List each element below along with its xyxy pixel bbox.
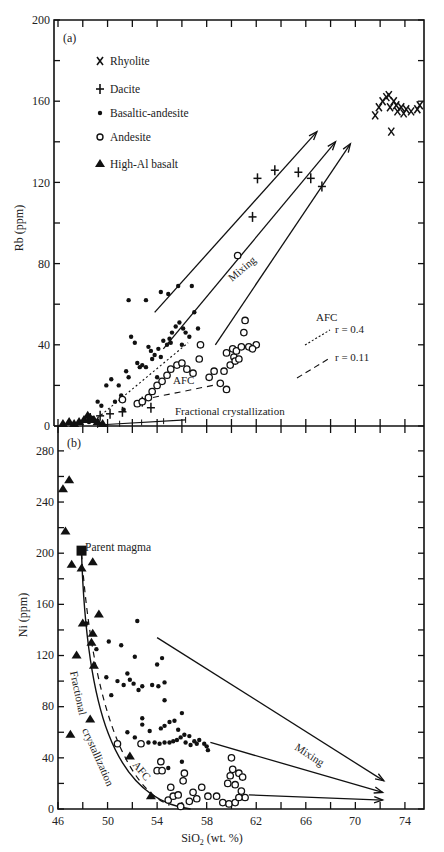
andesite-marker xyxy=(242,317,248,323)
high-al-basalt-marker xyxy=(88,557,98,565)
basaltic-andesite-marker xyxy=(140,716,144,720)
legend-label-andesite: Andesite xyxy=(110,131,151,143)
basaltic-andesite-dot-marker-icon xyxy=(98,111,102,115)
basaltic-andesite-marker xyxy=(206,748,210,752)
basaltic-andesite-marker xyxy=(176,728,180,732)
andesite-marker xyxy=(238,788,244,794)
basaltic-andesite-marker xyxy=(140,363,144,367)
basaltic-andesite-marker xyxy=(181,326,185,330)
panel-label-a: (a) xyxy=(63,31,76,45)
basaltic-andesite-marker xyxy=(133,655,137,659)
andesite-marker xyxy=(179,360,185,366)
ytick-b-120: 120 xyxy=(36,648,54,662)
andesite-marker xyxy=(177,803,183,809)
basaltic-andesite-marker xyxy=(167,720,171,724)
basaltic-andesite-marker xyxy=(162,698,166,702)
xtick-50: 50 xyxy=(102,814,114,828)
rhyolite-x-marker-icon xyxy=(97,57,103,65)
basaltic-andesite-marker xyxy=(167,337,171,341)
basaltic-andesite-marker xyxy=(144,365,148,369)
basaltic-andesite-marker xyxy=(140,722,144,726)
ytick-b-40: 40 xyxy=(42,751,54,765)
andesite-marker xyxy=(223,386,229,392)
legend-item-high-al-basalt: High-Al basalt xyxy=(95,158,179,171)
dacite-marker xyxy=(249,212,257,222)
basaltic-andesite-marker xyxy=(144,298,148,302)
basaltic-andesite-marker xyxy=(169,341,173,345)
basaltic-andesite-marker xyxy=(129,334,133,338)
basaltic-andesite-marker xyxy=(149,349,153,353)
basaltic-andesite-marker xyxy=(175,738,179,742)
andesite-marker xyxy=(186,798,192,804)
panel-b-ytick-labels: 0 40 80 120 160 200 240 280 xyxy=(36,444,54,816)
andesite-circle-marker-icon xyxy=(97,134,103,140)
dacite-marker xyxy=(294,167,302,177)
high-al-basalt-marker xyxy=(58,484,68,492)
high-al-basalt-marker xyxy=(72,651,82,659)
dacite-marker xyxy=(147,403,155,413)
basaltic-andesite-marker xyxy=(177,320,181,324)
basaltic-andesite-marker xyxy=(84,621,88,625)
legend-label-rhyolite: Rhyolite xyxy=(110,55,150,68)
basaltic-andesite-marker xyxy=(190,284,194,288)
andesite-marker xyxy=(175,792,181,798)
annotation-fractional-b: Fractional xyxy=(68,670,89,716)
basaltic-andesite-marker xyxy=(125,730,129,734)
basaltic-andesite-marker xyxy=(180,711,184,715)
basaltic-andesite-marker xyxy=(155,662,159,666)
basaltic-andesite-marker xyxy=(180,759,184,763)
basaltic-andesite-marker xyxy=(117,383,121,387)
ytick-b-200: 200 xyxy=(36,546,54,560)
basaltic-andesite-marker xyxy=(161,339,165,343)
andesite-marker xyxy=(199,784,205,790)
high-al-basalt-marker xyxy=(94,610,104,618)
basaltic-andesite-marker xyxy=(131,681,135,685)
basaltic-andesite-marker xyxy=(152,353,156,357)
basaltic-andesite-marker xyxy=(135,619,139,623)
andesite-marker xyxy=(229,766,235,772)
andesite-marker xyxy=(168,784,174,790)
basaltic-andesite-marker xyxy=(162,740,166,744)
basaltic-andesite-marker xyxy=(94,647,98,651)
andesite-marker xyxy=(226,801,232,807)
andesite-marker xyxy=(149,388,155,394)
andesite-marker xyxy=(197,342,203,348)
trend-lines xyxy=(82,132,384,809)
andesite-marker xyxy=(205,793,211,799)
high-al-basalt-triangle-marker-icon xyxy=(95,159,105,167)
basaltic-andesite-marker xyxy=(113,399,117,403)
basaltic-andesite-marker xyxy=(121,408,125,412)
andesite-marker xyxy=(211,368,217,374)
basaltic-andesite-marker xyxy=(160,656,164,660)
basaltic-andesite-marker xyxy=(109,693,113,697)
basaltic-andesite-marker xyxy=(95,399,99,403)
basaltic-andesite-marker xyxy=(157,742,161,746)
ytick-b-80: 80 xyxy=(42,699,54,713)
basaltic-andesite-marker xyxy=(135,361,139,365)
ytick-a-160: 160 xyxy=(32,94,50,108)
basaltic-andesite-marker xyxy=(155,375,159,379)
y-axis-label-rb: Rb (ppm) xyxy=(12,205,26,251)
andesite-marker xyxy=(238,344,244,350)
afc-key-dashed-line xyxy=(297,358,330,378)
panel-label-b: (b) xyxy=(67,436,81,450)
annotation-crystallization-b: crystallization xyxy=(80,726,117,788)
andesite-marker xyxy=(180,778,186,784)
basaltic-andesite-marker xyxy=(159,726,163,730)
basaltic-andesite-marker xyxy=(192,310,196,314)
basaltic-andesite-marker xyxy=(176,284,180,288)
andesite-marker xyxy=(242,794,248,800)
basaltic-andesite-marker xyxy=(162,680,166,684)
xtick-70: 70 xyxy=(349,814,361,828)
andesite-marker xyxy=(241,329,247,335)
basaltic-andesite-marker xyxy=(195,742,199,746)
dacite-plus-marker-icon xyxy=(96,84,104,94)
sio2-variation-chart: 0 40 80 120 160 200 0 40 80 120 160 200 … xyxy=(0,0,444,852)
andesite-marker xyxy=(139,398,145,404)
andesite-marker xyxy=(227,773,233,779)
andesite-marker xyxy=(158,758,164,764)
andesite-marker xyxy=(221,368,227,374)
basaltic-andesite-marker xyxy=(121,683,125,687)
basaltic-andesite-marker xyxy=(99,404,103,408)
basaltic-andesite-marker xyxy=(147,729,151,733)
